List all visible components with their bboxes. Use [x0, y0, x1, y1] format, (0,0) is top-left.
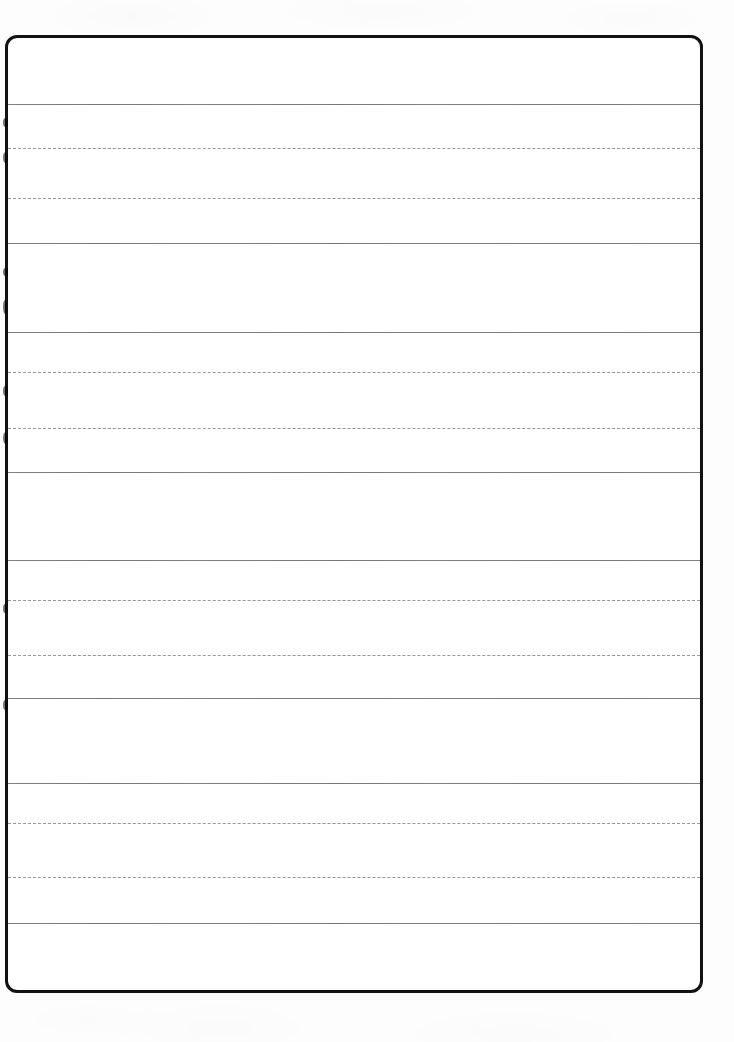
rule-dotted-5: [8, 600, 700, 601]
page-border-frame: [5, 35, 703, 993]
rule-dotted-3: [8, 372, 700, 373]
rule-solid-3: [8, 332, 700, 333]
rule-dotted-7: [8, 823, 700, 824]
rule-solid-4: [8, 472, 700, 473]
scanned-page-canvas: [0, 0, 734, 1042]
rule-dotted-4: [8, 428, 700, 429]
rule-dotted-8: [8, 877, 700, 878]
rule-solid-8: [8, 923, 700, 924]
rule-dotted-6: [8, 655, 700, 656]
rule-solid-1: [8, 104, 700, 105]
rule-solid-5: [8, 560, 700, 561]
rule-dotted-1: [8, 148, 700, 149]
rule-dotted-2: [8, 198, 700, 199]
rule-solid-2: [8, 243, 700, 244]
rule-solid-7: [8, 783, 700, 784]
rule-solid-6: [8, 698, 700, 699]
